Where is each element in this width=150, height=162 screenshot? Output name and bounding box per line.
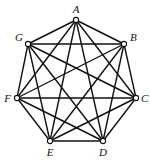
vertex-f <box>14 95 19 100</box>
vertex-label-b: B <box>130 31 137 43</box>
edge-d-f <box>17 98 103 141</box>
edges-group <box>17 20 136 141</box>
vertex-a <box>73 17 78 22</box>
vertex-label-d: D <box>98 146 107 158</box>
vertex-labels-group: ABCDEFG <box>3 3 149 158</box>
vertex-c <box>133 95 138 100</box>
edge-b-f <box>17 44 124 98</box>
complete-graph-k7: ABCDEFG <box>0 0 150 162</box>
vertex-b <box>121 41 126 46</box>
vertex-e <box>47 138 52 143</box>
vertex-label-e: E <box>46 146 54 158</box>
vertex-label-f: F <box>3 92 11 104</box>
vertex-d <box>100 138 105 143</box>
vertex-label-c: C <box>141 92 149 104</box>
vertex-g <box>25 41 30 46</box>
edge-c-g <box>28 44 136 98</box>
vertex-label-a: A <box>72 3 80 15</box>
edge-c-e <box>50 98 136 141</box>
edge-a-b <box>76 20 124 44</box>
vertex-label-g: G <box>15 31 23 43</box>
edge-a-g <box>28 20 76 44</box>
vertices-group <box>14 17 138 143</box>
